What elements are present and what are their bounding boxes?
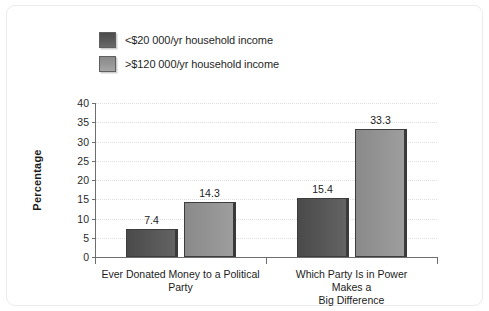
bar [355, 129, 407, 257]
y-axis: 0510152025303540 [95, 103, 96, 257]
bar-value-label: 14.3 [199, 187, 219, 199]
y-axis-tick [92, 103, 96, 104]
x-axis-tick [266, 257, 267, 264]
y-axis-tick [92, 142, 96, 143]
legend-label-high-income: >$120 000/yr household income [125, 58, 279, 70]
legend-item-low-income: <$20 000/yr household income [99, 28, 359, 52]
legend-item-high-income: >$120 000/yr household income [99, 52, 359, 76]
x-axis-tick [437, 257, 438, 264]
y-axis-tick-label: 5 [83, 232, 89, 244]
y-axis-tick-label: 35 [77, 116, 89, 128]
bar [184, 202, 236, 257]
chart-figure: <$20 000/yr household income >$120 000/y… [6, 5, 483, 306]
legend-label-low-income: <$20 000/yr household income [125, 34, 273, 46]
y-axis-title: Percentage [31, 149, 43, 210]
y-axis-tick-label: 10 [77, 213, 89, 225]
y-axis-tick [92, 161, 96, 162]
x-axis-category-label: Ever Donated Money to a Political Party [101, 268, 259, 294]
y-axis-tick [92, 238, 96, 239]
y-axis-tick [92, 180, 96, 181]
legend-swatch-icon-high-income [99, 56, 116, 72]
y-axis-tick [92, 219, 96, 220]
gridline [95, 103, 437, 104]
y-axis-tick-label: 15 [77, 193, 89, 205]
bar-value-label: 15.4 [312, 183, 332, 195]
y-axis-tick-label: 25 [77, 155, 89, 167]
x-axis-tick [95, 257, 96, 264]
bar [126, 229, 178, 257]
plot-area: 7.414.315.433.3 [95, 103, 437, 257]
y-axis-tick-label: 20 [77, 174, 89, 186]
legend-swatch-icon-low-income [99, 32, 116, 48]
y-axis-tick-label: 0 [83, 251, 89, 263]
chart-legend: <$20 000/yr household income >$120 000/y… [99, 28, 359, 76]
y-axis-tick [92, 122, 96, 123]
y-axis-tick [92, 199, 96, 200]
bar-value-label: 33.3 [370, 114, 390, 126]
x-axis-category-label: Which Party Is in Power Makes a Big Diff… [286, 268, 417, 307]
y-axis-tick-label: 40 [77, 97, 89, 109]
bar-value-label: 7.4 [144, 214, 159, 226]
bar [297, 198, 349, 257]
y-axis-tick-label: 30 [77, 136, 89, 148]
